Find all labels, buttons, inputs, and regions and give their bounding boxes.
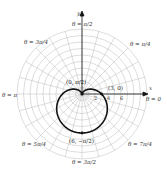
label-point-3-0: (3, 0) [108,85,123,91]
grid-ray [50,38,83,94]
grid-ray [65,94,82,157]
radial-tick-2: 2 [94,95,97,101]
point-6-negpi2 [81,132,84,135]
label-theta-pi-over-4: θ = π/4 [130,41,151,47]
grid-ray [19,94,82,111]
label-theta-pi: θ = π [2,92,17,98]
y-axis-arrow-icon [80,11,84,16]
label-theta-pi-over-2: θ = π/2 [72,21,93,27]
radial-tick-4: 4 [107,95,110,101]
grid-ray [82,94,99,157]
label-point-6-negpi2: (6, −π/2) [69,138,94,144]
label-theta-3pi-over-4: θ = 3π/4 [24,39,48,45]
grid-ray [82,94,145,111]
point-3-0 [100,93,103,96]
label-point-0-pi2: (0, π/2) [66,79,86,85]
label-theta-3pi-over-2: θ = 3π/2 [72,159,96,165]
point-origin [80,92,83,95]
polar-graph: y x θ = π/2 θ = π/4 θ = 0 θ = 7π/4 θ = 3… [0,0,167,183]
label-theta-0: θ = 0 [146,96,161,102]
radial-tick-6: 6 [120,95,123,101]
grid-ray [26,94,82,127]
label-theta-5pi-over-4: θ = 5π/4 [22,141,46,147]
x-axis-label: x [149,85,153,91]
label-theta-7pi-over-4: θ = 7π/4 [128,141,152,147]
